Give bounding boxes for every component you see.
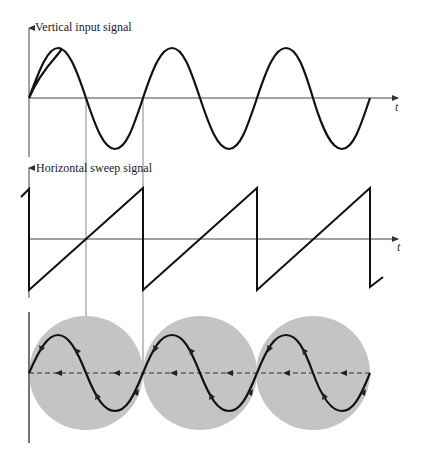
vertical-input-panel: Vertical input signal t [29, 20, 399, 157]
screen-panel [29, 312, 370, 443]
t-axis-label: t [397, 240, 401, 254]
t-axis-label: t [395, 100, 399, 114]
oscilloscope-diagram: Vertical input signal t Horizontal sweep… [0, 0, 421, 457]
panel-title: Vertical input signal [35, 20, 132, 34]
panel-title: Horizontal sweep signal [36, 161, 153, 175]
horizontal-sweep-panel: Horizontal sweep signal t [21, 161, 401, 298]
